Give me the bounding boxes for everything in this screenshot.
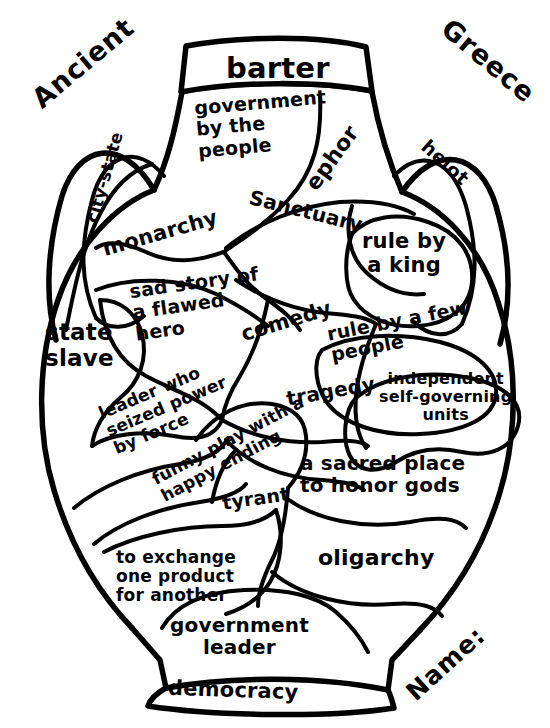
vase-neck-left	[154, 92, 182, 190]
vase-neck-right	[372, 92, 402, 192]
divider-exchange-top	[104, 510, 276, 552]
divider-shoulder-left	[96, 243, 224, 260]
divider-neck-vertical	[224, 95, 320, 252]
divider-funnyplay-bottom	[94, 484, 246, 544]
divider-units-blob	[345, 375, 519, 470]
divider-sacred-bottom	[286, 498, 466, 528]
divider-ephor-bottom	[226, 202, 414, 249]
vase-body-right	[402, 192, 513, 630]
worksheet-page: Ancient Greece Name: barter government b…	[0, 0, 550, 728]
divider-monarchy-bottom	[96, 281, 268, 326]
vase-body-left	[42, 190, 154, 628]
divider-leader-band-bottom	[74, 438, 228, 508]
handle-right-outer	[402, 159, 508, 344]
divider-fewpeople-oval	[316, 336, 496, 434]
vase-base-plinth	[148, 688, 394, 715]
vase-outline-drawing	[0, 0, 550, 728]
